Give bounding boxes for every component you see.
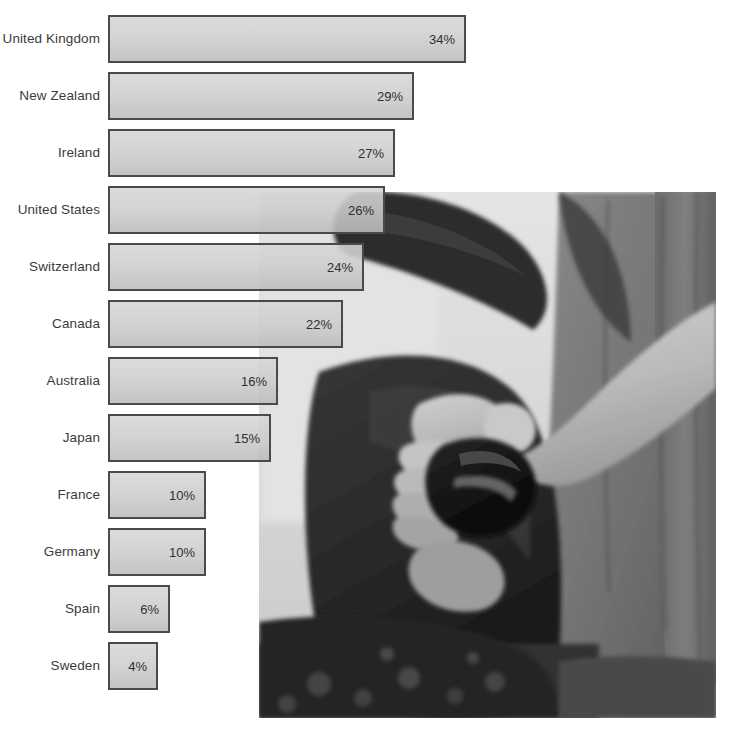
bar-value-spain: 6% bbox=[140, 602, 168, 617]
bar-row-germany: Germany 10% bbox=[0, 528, 206, 576]
bar-australia: 16% bbox=[108, 357, 278, 405]
bar-value-united-kingdom: 34% bbox=[429, 32, 464, 47]
bar-label-switzerland: Switzerland bbox=[0, 260, 108, 275]
bar-canada: 22% bbox=[108, 300, 343, 348]
bar-row-canada: Canada 22% bbox=[0, 300, 343, 348]
bar-sweden: 4% bbox=[108, 642, 158, 690]
bar-united-states: 26% bbox=[108, 186, 385, 234]
bar-value-france: 10% bbox=[169, 488, 204, 503]
bar-ireland: 27% bbox=[108, 129, 395, 177]
bar-row-sweden: Sweden 4% bbox=[0, 642, 158, 690]
bar-row-france: France 10% bbox=[0, 471, 206, 519]
bar-row-united-kingdom: United Kingdom 34% bbox=[0, 15, 466, 63]
bar-label-spain: Spain bbox=[0, 602, 108, 617]
bar-row-ireland: Ireland 27% bbox=[0, 129, 395, 177]
bar-row-new-zealand: New Zealand 29% bbox=[0, 72, 414, 120]
bar-label-france: France bbox=[0, 488, 108, 503]
bar-value-australia: 16% bbox=[241, 374, 276, 389]
bar-row-switzerland: Switzerland 24% bbox=[0, 243, 364, 291]
bar-value-united-states: 26% bbox=[348, 203, 383, 218]
bar-label-ireland: Ireland bbox=[0, 146, 108, 161]
bar-label-united-states: United States bbox=[0, 203, 108, 218]
bar-row-united-states: United States 26% bbox=[0, 186, 385, 234]
bar-value-japan: 15% bbox=[234, 431, 269, 446]
bar-row-australia: Australia 16% bbox=[0, 357, 278, 405]
bar-label-germany: Germany bbox=[0, 545, 108, 560]
bar-value-switzerland: 24% bbox=[327, 260, 362, 275]
bar-germany: 10% bbox=[108, 528, 206, 576]
bar-label-united-kingdom: United Kingdom bbox=[0, 32, 108, 47]
bar-value-sweden: 4% bbox=[128, 659, 156, 674]
bar-value-canada: 22% bbox=[306, 317, 341, 332]
bar-japan: 15% bbox=[108, 414, 271, 462]
bar-france: 10% bbox=[108, 471, 206, 519]
bar-value-germany: 10% bbox=[169, 545, 204, 560]
bar-value-ireland: 27% bbox=[358, 146, 393, 161]
bar-united-kingdom: 34% bbox=[108, 15, 466, 63]
chart-canvas: United Kingdom 34% New Zealand 29% Irela… bbox=[0, 0, 731, 731]
bar-new-zealand: 29% bbox=[108, 72, 414, 120]
bar-row-spain: Spain 6% bbox=[0, 585, 170, 633]
bar-switzerland: 24% bbox=[108, 243, 364, 291]
bar-label-australia: Australia bbox=[0, 374, 108, 389]
bar-chart: United Kingdom 34% New Zealand 29% Irela… bbox=[0, 0, 731, 731]
bar-label-sweden: Sweden bbox=[0, 659, 108, 674]
bar-label-canada: Canada bbox=[0, 317, 108, 332]
bar-spain: 6% bbox=[108, 585, 170, 633]
bar-label-japan: Japan bbox=[0, 431, 108, 446]
bar-value-new-zealand: 29% bbox=[377, 89, 412, 104]
bar-label-new-zealand: New Zealand bbox=[0, 89, 108, 104]
bar-row-japan: Japan 15% bbox=[0, 414, 271, 462]
